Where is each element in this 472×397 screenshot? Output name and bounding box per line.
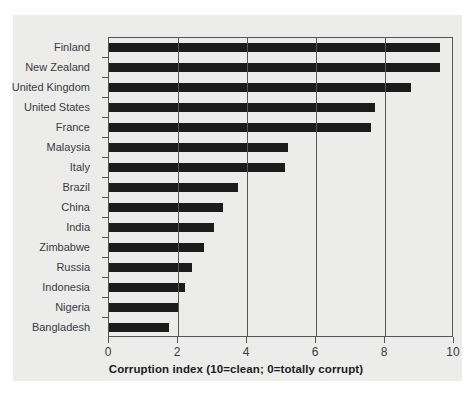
bar-row — [109, 218, 452, 238]
category-label-italy: Italy — [70, 161, 90, 173]
bar-brazil — [109, 183, 238, 192]
bar-row — [109, 278, 452, 298]
x-tick-6 — [315, 337, 316, 343]
category-label-finland: Finland — [54, 41, 90, 53]
category-tick — [102, 157, 108, 158]
category-tick — [102, 257, 108, 258]
bar-row — [109, 38, 452, 58]
x-tick-8 — [384, 337, 385, 343]
bar-row — [109, 98, 452, 118]
bar-row — [109, 118, 452, 138]
category-tick — [102, 177, 108, 178]
category-label-china: China — [61, 201, 90, 213]
bar-row — [109, 178, 452, 198]
bar-row — [109, 78, 452, 98]
bar-united-states — [109, 103, 375, 112]
gridline-2 — [178, 38, 179, 336]
category-tick — [102, 297, 108, 298]
bar-indonesia — [109, 283, 185, 292]
bar-zimbabwe — [109, 243, 204, 252]
bar-malaysia — [109, 143, 288, 152]
category-label-united-states: United States — [24, 101, 90, 113]
x-tick-label-10: 10 — [438, 345, 468, 359]
bar-new-zealand — [109, 63, 440, 72]
bar-series — [109, 38, 452, 336]
bar-row — [109, 298, 452, 318]
category-tick — [102, 97, 108, 98]
gridline-8 — [385, 38, 386, 336]
x-tick-label-8: 8 — [369, 345, 399, 359]
bar-finland — [109, 43, 440, 52]
bar-india — [109, 223, 214, 232]
bar-row — [109, 318, 452, 338]
category-tick — [102, 57, 108, 58]
bar-china — [109, 203, 223, 212]
category-label-united-kingdom: United Kingdom — [12, 81, 90, 93]
category-label-france: France — [56, 121, 90, 133]
category-tick — [102, 117, 108, 118]
category-label-indonesia: Indonesia — [42, 281, 90, 293]
x-tick-label-2: 2 — [162, 345, 192, 359]
x-tick-4 — [246, 337, 247, 343]
category-tick — [102, 77, 108, 78]
category-label-zimbabwe: Zimbabwe — [39, 241, 90, 253]
gridline-6 — [316, 38, 317, 336]
gridline-4 — [247, 38, 248, 336]
x-tick-2 — [177, 337, 178, 343]
bar-russia — [109, 263, 192, 272]
bar-united-kingdom — [109, 83, 411, 92]
chart-figure: FinlandNew ZealandUnited KingdomUnited S… — [0, 0, 472, 397]
category-label-malaysia: Malaysia — [47, 141, 90, 153]
bar-bangladesh — [109, 323, 169, 332]
x-axis-title: Corruption index (10=clean; 0=totally co… — [0, 363, 472, 375]
plot-area — [108, 37, 453, 337]
category-tick — [102, 277, 108, 278]
category-tick — [102, 197, 108, 198]
category-label-brazil: Brazil — [62, 181, 90, 193]
bar-nigeria — [109, 303, 178, 312]
category-label-new-zealand: New Zealand — [25, 61, 90, 73]
category-label-russia: Russia — [56, 261, 90, 273]
bar-france — [109, 123, 371, 132]
x-tick-label-0: 0 — [93, 345, 123, 359]
category-tick — [102, 317, 108, 318]
bar-row — [109, 258, 452, 278]
x-tick-10 — [453, 337, 454, 343]
bar-row — [109, 58, 452, 78]
bar-row — [109, 138, 452, 158]
x-tick-label-6: 6 — [300, 345, 330, 359]
bar-row — [109, 238, 452, 258]
category-label-india: India — [66, 221, 90, 233]
bar-row — [109, 158, 452, 178]
bar-italy — [109, 163, 285, 172]
category-tick — [102, 137, 108, 138]
x-tick-0 — [108, 337, 109, 343]
category-tick — [102, 237, 108, 238]
category-label-nigeria: Nigeria — [55, 301, 90, 313]
bar-row — [109, 198, 452, 218]
x-tick-label-4: 4 — [231, 345, 261, 359]
category-label-bangladesh: Bangladesh — [32, 321, 90, 333]
category-tick — [102, 217, 108, 218]
